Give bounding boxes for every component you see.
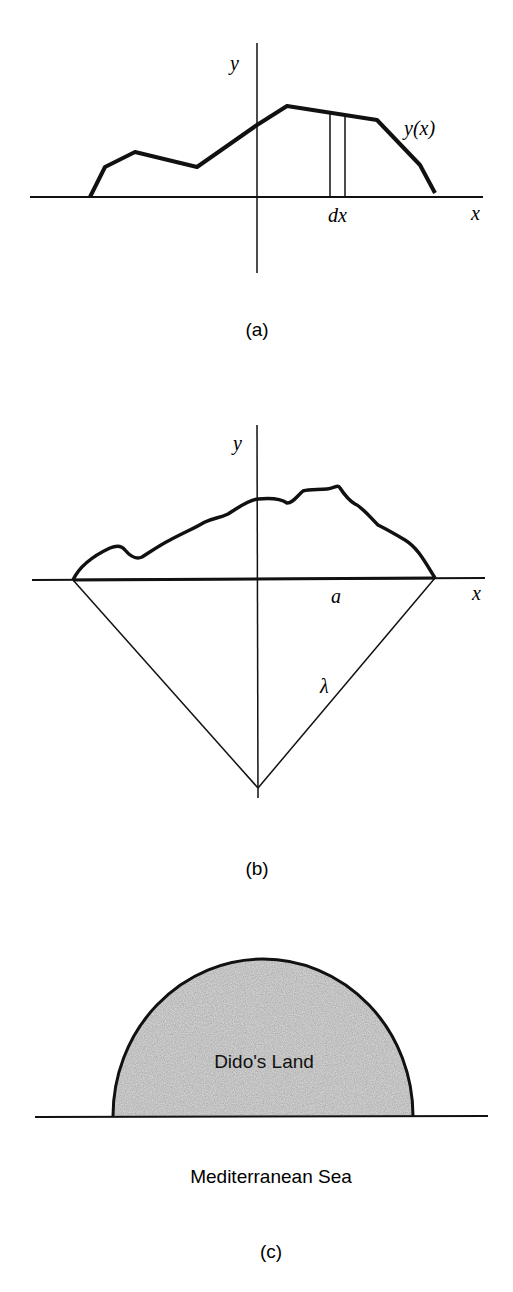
curve-label: y(x) (402, 117, 435, 140)
right-side-lambda (258, 578, 435, 788)
y-axis-label: y (231, 432, 242, 455)
left-side (73, 580, 258, 788)
figure-canvas: y x y(x) dx (a) y x a λ (b) Dido's Land … (0, 0, 513, 1292)
figure-b: y x a λ (b) (32, 425, 485, 879)
coastline (35, 1116, 488, 1117)
irregular-curve (73, 486, 435, 580)
figure-a: y x y(x) dx (a) (30, 43, 483, 340)
figure-c: Dido's Land Mediterranean Sea (c) (35, 959, 488, 1262)
side-label: λ (319, 675, 329, 697)
half-width-label: a (331, 585, 341, 607)
piecewise-curve (90, 106, 435, 197)
caption-c: (c) (260, 1241, 282, 1262)
dido-land-region (113, 959, 413, 1116)
chord (73, 578, 435, 580)
sea-label: Mediterranean Sea (190, 1166, 352, 1187)
x-axis-label: x (470, 202, 480, 224)
y-axis-label: y (228, 52, 239, 75)
caption-b: (b) (245, 858, 268, 879)
strip-label: dx (328, 204, 347, 226)
region-label: Dido's Land (214, 1051, 314, 1072)
caption-a: (a) (245, 319, 268, 340)
y-axis (257, 425, 258, 798)
x-axis-label: x (471, 582, 481, 604)
